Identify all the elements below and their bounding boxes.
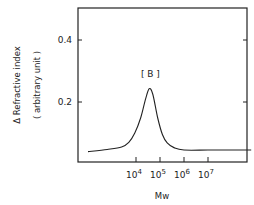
- x-tick-label: 106: [174, 168, 190, 180]
- plot-frame: [78, 8, 247, 162]
- x-axis-title: Mw: [155, 191, 169, 201]
- y-tick-label: 0.2: [58, 97, 72, 107]
- y-axis-title: Δ Refractive index: [12, 46, 22, 124]
- y-tick-label: 0.4: [58, 35, 73, 45]
- series-line-b: [88, 88, 251, 151]
- x-tick-label: 104: [126, 168, 142, 180]
- y-axis-subtitle: ( arbitrary unit ): [32, 51, 42, 119]
- annotation-b: [ B ]: [141, 69, 160, 79]
- chart: 0.20.4 104105106107 [ B ] Mw Δ Refractiv…: [0, 0, 254, 205]
- x-tick-label: 107: [198, 168, 214, 180]
- x-tick-label: 105: [150, 168, 166, 180]
